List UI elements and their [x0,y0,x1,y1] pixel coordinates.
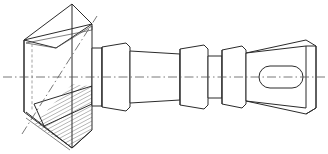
technical-drawing-canvas [0,0,328,154]
engineering-drawing-svg [0,0,328,154]
